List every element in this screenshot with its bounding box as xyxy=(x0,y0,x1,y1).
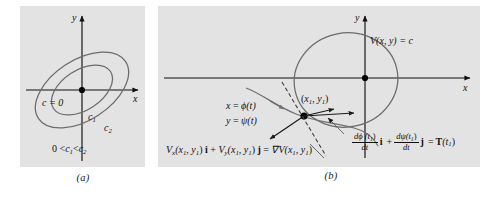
fraction-dphi-dt: dϕ (t1)dt xyxy=(352,132,378,152)
dphi-numerator: dϕ (t1) xyxy=(352,132,378,142)
dpsi-numerator: dψ(t1) xyxy=(394,132,418,142)
point-label: (x1, y1) xyxy=(301,94,328,106)
trajectory-eq-line2: y = ψ(t) xyxy=(226,116,257,126)
trajectory-direction-arrow xyxy=(270,101,284,109)
leader-to-gradient-formula xyxy=(310,144,324,158)
grad-arg1: (x xyxy=(175,144,183,155)
level-label-c2: c2 xyxy=(104,123,112,135)
tangent-T-vector: T xyxy=(436,137,443,147)
grad-nabla-close: ) xyxy=(309,144,312,155)
tangent-T-close: ) xyxy=(452,137,455,147)
origin-dot-a xyxy=(79,87,85,93)
tangent-i-hat: i xyxy=(378,137,385,147)
grad-equals: = xyxy=(261,144,272,155)
traj-phi: ϕ(t) xyxy=(241,100,256,111)
level-curve-label: V(x, y) = c xyxy=(370,36,413,46)
panel-a: x y c = 0 c1 c2 0 <c1<c2 xyxy=(20,6,145,167)
grad-arg2-mid: , y xyxy=(239,144,248,155)
level-label-c2-sub: 2 xyxy=(108,127,111,134)
caption-b: (b) xyxy=(296,170,366,181)
trajectory-eq-line1: x = ϕ(t) xyxy=(226,101,256,111)
fraction-dpsi-dt: dψ(t1)dt xyxy=(394,132,418,152)
grad-nabla-v: ∇V(x xyxy=(271,144,292,155)
gradient-formula: Vx(x1, y1) i + Vy(x1, y1) j = ∇V(x1, y1) xyxy=(166,145,312,157)
tangent-equals: = xyxy=(426,137,436,147)
traj-eq1: = xyxy=(230,100,241,111)
inequality-label: 0 <c1<c2 xyxy=(52,144,87,156)
axis-label-y-b: y xyxy=(355,13,359,23)
origin-level-label: c = 0 xyxy=(42,98,63,108)
grad-plus: + xyxy=(208,144,219,155)
ineq-c2-sub: 2 xyxy=(83,148,86,155)
point-close: ) xyxy=(325,93,328,104)
tangent-plus: + xyxy=(384,137,394,147)
dpsi-num-text: dψ(t xyxy=(396,131,411,141)
figure-root: x y c = 0 c1 c2 0 <c1<c2 (a) xyxy=(0,0,490,197)
dphi-num-close: ) xyxy=(373,131,376,141)
level-curve-label-text: V(x, y) = c xyxy=(370,35,413,46)
panel-b: x y V(x, y) = c (x1, y1) x = ϕ(t) y = ψ(… xyxy=(158,6,480,167)
origin-dot-b xyxy=(362,75,368,81)
tangent-formula: dϕ (t1)dti+dψ(t1)dtj=T(t1) xyxy=(352,132,455,152)
traj-psi: ψ(t) xyxy=(241,115,257,126)
level-label-c1-sub: 1 xyxy=(92,116,95,123)
axis-label-x-b: x xyxy=(463,83,467,93)
dphi-num-text: dϕ (t xyxy=(354,131,370,141)
dphi-denominator: dt xyxy=(352,142,378,152)
caption-a: (a) xyxy=(48,172,118,183)
axis-label-x-a: x xyxy=(133,94,137,104)
grad-arg1-mid: , y xyxy=(186,144,195,155)
gradient-vector xyxy=(270,116,304,139)
traj-eq2: = xyxy=(230,115,241,126)
axis-label-y-a: y xyxy=(72,13,76,23)
level-label-c1: c1 xyxy=(88,112,96,124)
dpsi-denominator: dt xyxy=(394,142,418,152)
tangent-j-hat: j xyxy=(419,137,426,147)
dpsi-num-close: ) xyxy=(414,131,417,141)
ineq-zero: 0 < xyxy=(52,143,65,154)
grad-nabla-mid: , y xyxy=(296,144,305,155)
